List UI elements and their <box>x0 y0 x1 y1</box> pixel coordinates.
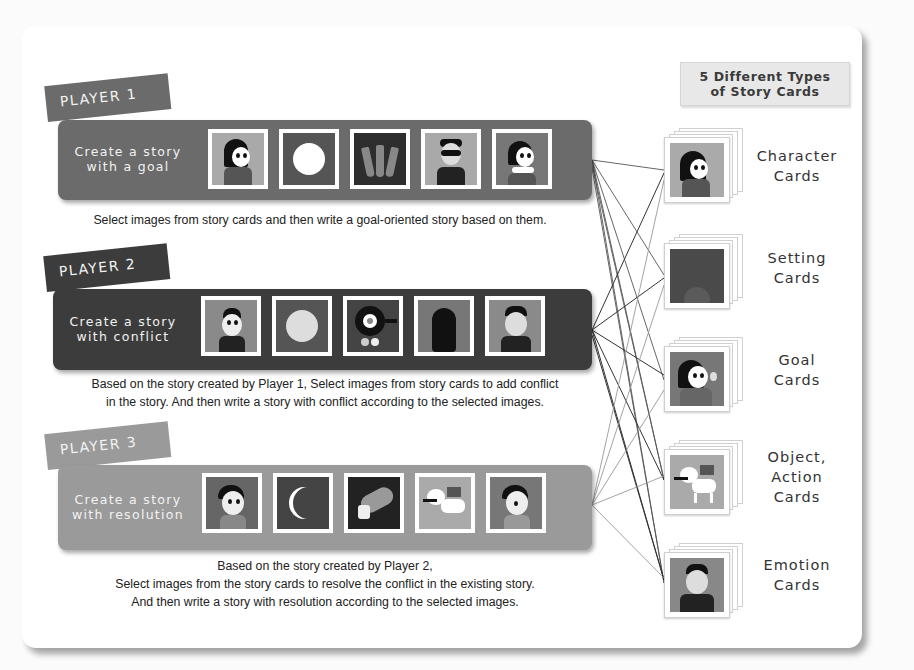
card-label-line-1: Setting <box>752 248 842 268</box>
card-types-header: 5 Different Types of Story Cards <box>680 62 850 106</box>
card-label-line-1: Goal <box>752 350 842 370</box>
player-2-caption: Based on the story created by Player 1, … <box>40 375 610 411</box>
player-2-images <box>201 296 545 356</box>
smug-boy-icon <box>485 296 545 356</box>
object-action-cards-label: Object, Action Cards <box>752 447 842 507</box>
character-cards-stack <box>664 137 728 201</box>
player-2-task-line-1: Create a story <box>63 314 183 329</box>
dark-setting-icon <box>670 249 724 303</box>
girl-character-icon <box>208 129 268 189</box>
card-label-line-3: Cards <box>752 487 842 507</box>
carrots-icon <box>350 129 410 189</box>
player-2-caption-line-1: Based on the story created by Player 1, … <box>40 375 610 393</box>
card-label-line-1: Character <box>752 146 842 166</box>
emotion-cards-stack <box>664 552 728 616</box>
card-label-line-2: Action <box>752 467 842 487</box>
player-1-task-line-2: with a goal <box>68 159 188 174</box>
goal-cards-label: Goal Cards <box>752 350 842 390</box>
calm-kid-icon <box>486 473 546 533</box>
goal-cards-stack <box>664 346 728 410</box>
card-label-line-2: Cards <box>752 575 842 595</box>
player-3-images <box>202 473 546 533</box>
dark-villain-icon <box>414 296 474 356</box>
girl-arms-crossed-icon <box>492 129 552 189</box>
setting-cards-stack <box>664 243 728 307</box>
player-3-caption: Based on the story created by Player 2, … <box>40 557 610 611</box>
emotion-cards-label: Emotion Cards <box>752 555 842 595</box>
happy-kid-icon <box>202 473 262 533</box>
full-moon-icon <box>279 129 339 189</box>
frying-pan-egg-icon <box>343 296 403 356</box>
waving-girl-icon <box>670 352 724 406</box>
player-3-task-line-1: Create a story <box>68 492 188 507</box>
object-action-cards-stack <box>664 449 728 513</box>
card-label-line-2: Cards <box>752 268 842 288</box>
header-line-1: 5 Different Types <box>681 69 849 84</box>
player-2-caption-line-2: in the story. And then write a story wit… <box>40 393 610 411</box>
boy-character-icon <box>201 296 261 356</box>
player-1-task: Create a story with a goal <box>68 144 188 174</box>
player-1-images <box>208 129 552 189</box>
player-3-caption-line-3: And then write a story with resolution a… <box>40 593 610 611</box>
header-line-2: of Story Cards <box>681 84 849 99</box>
player-1-caption: Select images from story cards and then … <box>40 211 600 229</box>
card-label-line-2: Cards <box>752 166 842 186</box>
bread-loaf-icon <box>344 473 404 533</box>
character-cards-label: Character Cards <box>752 146 842 186</box>
player-3-bar: Create a story with resolution <box>58 465 592 550</box>
player-2-bar: Create a story with conflict <box>53 289 592 370</box>
player-1-tab-label: PLAYER 1 <box>59 86 138 110</box>
crescent-moon-icon <box>273 473 333 533</box>
setting-cards-label: Setting Cards <box>752 248 842 288</box>
dog-with-bone-icon <box>670 455 724 509</box>
dog-with-bone-icon <box>415 473 475 533</box>
player-3-task-line-2: with resolution <box>68 507 188 522</box>
player-3-tab-label: PLAYER 3 <box>59 434 138 458</box>
player-3-task: Create a story with resolution <box>68 492 188 522</box>
smug-boy-icon <box>670 558 724 612</box>
card-label-line-1: Emotion <box>752 555 842 575</box>
player-2-task: Create a story with conflict <box>63 314 183 344</box>
player-1-task-line-1: Create a story <box>68 144 188 159</box>
masked-catwoman-icon <box>421 129 481 189</box>
pale-moon-icon <box>272 296 332 356</box>
player-2-tab-label: PLAYER 2 <box>58 256 137 280</box>
player-3-caption-line-2: Select images from the story cards to re… <box>40 575 610 593</box>
girl-character-icon <box>670 143 724 197</box>
player-1-caption-line-1: Select images from story cards and then … <box>40 211 600 229</box>
player-3-caption-line-1: Based on the story created by Player 2, <box>40 557 610 575</box>
player-1-bar: Create a story with a goal <box>58 120 592 200</box>
card-label-line-1: Object, <box>752 447 842 467</box>
player-2-task-line-2: with conflict <box>63 329 183 344</box>
card-label-line-2: Cards <box>752 370 842 390</box>
